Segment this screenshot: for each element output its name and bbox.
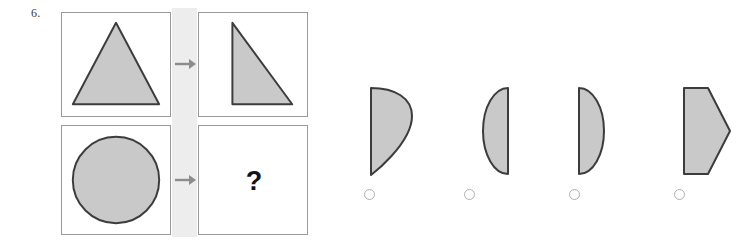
answer-option-3-radio[interactable] [569, 189, 580, 200]
answer-option-4-radio[interactable] [674, 189, 685, 200]
panel-top-right [198, 12, 308, 117]
left-facing-semicircle-icon [450, 80, 542, 180]
answer-option-4[interactable] [660, 80, 744, 205]
answer-option-2-radio[interactable] [464, 189, 475, 200]
panel-bottom-left [61, 125, 171, 235]
answer-options [340, 0, 744, 245]
right-facing-semicircle-icon [555, 80, 647, 180]
panel-top-left [61, 12, 171, 117]
question-mark: ? [199, 126, 309, 236]
question-number: 6. [31, 6, 40, 21]
panel-bottom-right-answer: ? [198, 125, 308, 235]
answer-option-3[interactable] [555, 80, 647, 205]
filled-triangle-icon [62, 13, 170, 116]
connector-strip [172, 8, 197, 237]
right-half-triangle-icon [199, 13, 307, 116]
answer-option-2[interactable] [450, 80, 542, 205]
analogy-puzzle: 6. ? [0, 0, 744, 245]
answer-option-1[interactable] [350, 80, 442, 205]
transform-arrow-bottom-icon [172, 170, 198, 190]
analogy-block: ? [55, 6, 317, 238]
answer-option-1-radio[interactable] [364, 189, 375, 200]
transform-arrow-top-icon [172, 54, 198, 74]
filled-circle-icon [62, 126, 170, 234]
right-pointing-pentagon-icon [660, 80, 744, 180]
teardrop-leaf-icon [350, 80, 442, 180]
